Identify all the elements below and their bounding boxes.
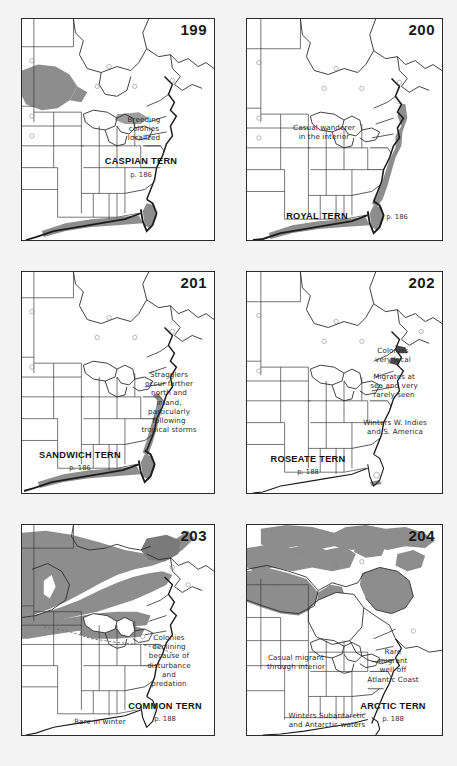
map-cell-204: 204 Casual migrant through interior Rare… [228,506,457,766]
map-cell-199: 199 Breeding colonies localized CASPIAN … [0,0,228,253]
panel-number-badge: 203 [180,527,207,544]
species-name-label: ARCTIC TERN [351,701,435,711]
species-name-label: ROYAL TERN [279,211,355,221]
species-name-label: COMMON TERN [120,701,210,711]
map-annotation: Rare migrant well off Atlantic Coast [351,647,435,684]
map-annotation: Colonies very local [363,346,423,364]
panel-number-badge: 202 [408,274,435,291]
map-panel-arctic-tern[interactable]: 204 Casual migrant through interior Rare… [246,524,443,736]
map-cell-203: 203 Colonies declining because of distur… [0,506,228,766]
map-annotation: Colonies declining because of disturbanc… [134,633,204,688]
page-reference: p. 186 [375,213,419,221]
map-annotation: Casual wanderer in the interior [283,123,365,141]
map-panel-sandwich-tern[interactable]: 201 Stragglers occur farther north and i… [21,271,215,494]
map-annotation: Breeding colonies localized [114,115,174,143]
map-annotation: Migrates at sea and very rarely seen [361,372,427,400]
species-name-label: CASPIAN TERN [96,156,186,166]
page-reference: p. 186 [96,171,186,179]
map-cell-201: 201 Stragglers occur farther north and i… [0,253,228,506]
page-reference: p. 188 [351,715,435,723]
species-name-label: SANDWICH TERN [30,450,130,460]
map-cell-202: 202 Colonies very local Migrates at sea … [228,253,457,506]
page-reference: p. 188 [120,715,210,723]
map-panel-caspian-tern[interactable]: 199 Breeding colonies localized CASPIAN … [21,18,215,241]
map-cell-200: 200 Casual wanderer in the interior ROYA… [228,0,457,253]
panel-grid: 199 Breeding colonies localized CASPIAN … [0,0,457,766]
panel-number-badge: 199 [180,21,207,38]
map-annotation: Casual migrant through interior [253,653,339,671]
species-name-label: ROSEATE TERN [265,454,351,464]
map-panel-roseate-tern[interactable]: 202 Colonies very local Migrates at sea … [246,271,443,494]
plate-page: 199 Breeding colonies localized CASPIAN … [0,0,457,766]
panel-number-badge: 204 [408,527,435,544]
page-reference: p. 188 [265,468,351,476]
map-panel-common-tern[interactable]: 203 Colonies declining because of distur… [21,524,215,736]
map-panel-royal-tern[interactable]: 200 Casual wanderer in the interior ROYA… [246,18,443,241]
page-reference: p. 186 [30,464,130,472]
panel-number-badge: 201 [180,274,207,291]
map-annotation: Winters W. Indies and S. America [353,418,437,436]
map-annotation: Stragglers occur farther north and inlan… [132,370,206,435]
panel-number-badge: 200 [408,21,435,38]
